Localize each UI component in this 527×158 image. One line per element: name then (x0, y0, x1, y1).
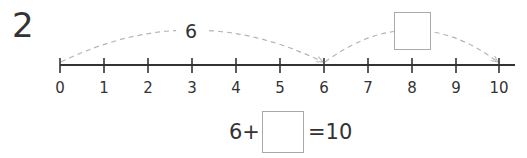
tick-label-9: 9 (451, 79, 461, 97)
tick-label-1: 1 (99, 79, 109, 97)
tick-label-6: 6 (319, 79, 329, 97)
jump-answer-box[interactable] (394, 12, 431, 50)
equation: 6+ =10 (229, 111, 352, 153)
tick-labels: 0 1 2 3 4 5 6 7 8 9 10 (55, 79, 508, 97)
jump-label: 6 (185, 20, 197, 42)
tick-label-7: 7 (363, 79, 373, 97)
tick-label-8: 8 (407, 79, 417, 97)
tick-label-5: 5 (275, 79, 285, 97)
equation-left: 6+ (229, 120, 260, 144)
number-line: 6 0 1 2 3 4 5 6 7 8 9 10 (0, 0, 527, 110)
tick-label-10: 10 (489, 79, 508, 97)
tick-label-2: 2 (143, 79, 153, 97)
equation-answer-box[interactable] (262, 111, 304, 153)
tick-label-3: 3 (187, 79, 197, 97)
tick-label-0: 0 (55, 79, 65, 97)
tick-label-4: 4 (231, 79, 241, 97)
equation-right: =10 (308, 120, 352, 144)
